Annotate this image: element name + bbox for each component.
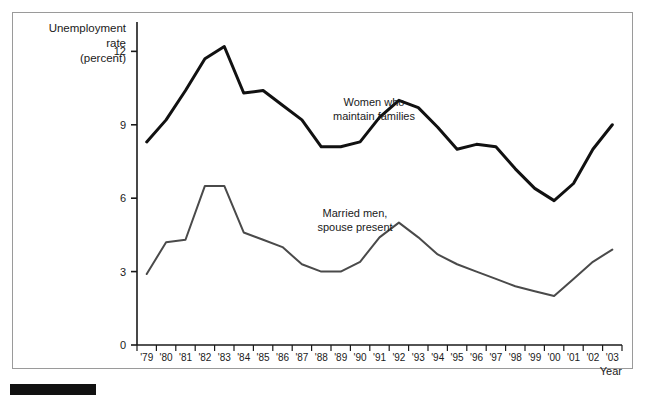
x-tick-label: '90 bbox=[354, 352, 367, 363]
x-tick-label: '88 bbox=[315, 352, 328, 363]
x-tick-label: '83 bbox=[218, 352, 231, 363]
x-tick-label: '99 bbox=[528, 352, 541, 363]
x-tick-label: '79 bbox=[140, 352, 153, 363]
x-tick-label: '93 bbox=[412, 352, 425, 363]
x-tick-label: '98 bbox=[509, 352, 522, 363]
annotation-women-line2: maintain families bbox=[333, 110, 415, 122]
y-tick-label: 6 bbox=[120, 192, 126, 204]
x-tick-label: '95 bbox=[451, 352, 464, 363]
x-tick-label: '00 bbox=[548, 352, 561, 363]
y-axis-title-line3: (percent) bbox=[80, 52, 126, 64]
annotation-women-line1: Women who bbox=[344, 96, 405, 108]
y-tick-label: 0 bbox=[120, 339, 126, 351]
x-tick-label: '89 bbox=[334, 352, 347, 363]
x-tick-label: '84 bbox=[237, 352, 250, 363]
annotation-married-line1: Married men, bbox=[323, 207, 388, 219]
x-tick-label: '94 bbox=[431, 352, 444, 363]
y-tick-group: 036912 bbox=[114, 45, 137, 351]
x-tick-label: '85 bbox=[257, 352, 270, 363]
x-tick-label: '03 bbox=[606, 352, 619, 363]
x-tick-label: '80 bbox=[160, 352, 173, 363]
chart-canvas: 036912 '79'80'81'82'83'84'85'86'87'88'89… bbox=[0, 0, 646, 397]
x-tick-label: '96 bbox=[470, 352, 483, 363]
y-axis-title-line1: Unemployment bbox=[49, 22, 127, 34]
x-axis-title: Year bbox=[600, 365, 623, 377]
source-bar bbox=[10, 384, 96, 395]
x-tick-label: '92 bbox=[392, 352, 405, 363]
annotation-married-line2: spouse present bbox=[317, 221, 392, 233]
x-tick-group bbox=[137, 345, 622, 351]
x-tick-label: '97 bbox=[489, 352, 502, 363]
x-tick-label: '91 bbox=[373, 352, 386, 363]
series-line bbox=[147, 46, 613, 200]
x-tick-label: '01 bbox=[567, 352, 580, 363]
x-tick-label: '02 bbox=[586, 352, 599, 363]
y-axis-title-line2: rate bbox=[106, 37, 126, 49]
series-group bbox=[147, 46, 613, 296]
x-tick-label: '82 bbox=[198, 352, 211, 363]
figure-root: 036912 '79'80'81'82'83'84'85'86'87'88'89… bbox=[0, 0, 646, 397]
y-tick-label: 3 bbox=[120, 266, 126, 278]
x-tick-label: '81 bbox=[179, 352, 192, 363]
x-tick-label-group: '79'80'81'82'83'84'85'86'87'88'89'90'91'… bbox=[140, 352, 619, 363]
y-tick-label: 9 bbox=[120, 119, 126, 131]
x-tick-label: '86 bbox=[276, 352, 289, 363]
series-line bbox=[147, 186, 613, 296]
x-tick-label: '87 bbox=[295, 352, 308, 363]
